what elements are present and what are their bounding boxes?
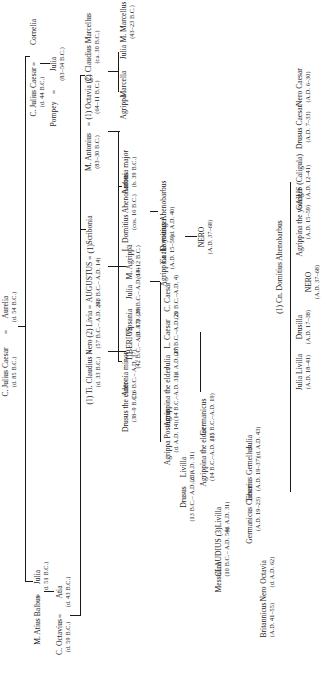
connector-line	[200, 332, 201, 392]
person-nero-spouse: Nero	[260, 586, 268, 601]
person-m-antonius: M. Antonius (83–30 B.C.)	[85, 133, 100, 171]
person-pompey: Pompey	[50, 102, 58, 127]
connector-line	[44, 591, 54, 592]
marriage-sign: =	[30, 62, 39, 67]
family-tree-diagram: C. Julius Caesar (d. 85 B.C.) = Aurelia …	[0, 0, 324, 692]
person-messalina: Messalina	[215, 562, 223, 593]
person-nero: NERO (A.D. 37–68)	[305, 265, 320, 299]
connector-line	[290, 182, 291, 492]
person-drusilla: Drusilla (A.D. 17–38)	[296, 310, 311, 344]
person-julia-livilla: Julia Livilla (A.D. 18–41)	[296, 354, 311, 391]
person-atia: Atia (d. 43 B.C.)	[56, 577, 71, 608]
person-cornelia: Cornelia	[30, 19, 38, 45]
person-julia-wife-of-pompey: Julia (83–54 B.C.)	[50, 47, 65, 81]
person-nero-caesar: Nero Caesar (A.D. 6–30)	[296, 68, 311, 106]
person-agrippa-postumus: Agrippa Postumus (d. A.D. 14)	[164, 409, 179, 465]
person-m-agrippa: M. Agrippa (63–12 B.C.)	[126, 244, 141, 279]
person-tiberius: TIBERIUS (42 B.C.– A.D. 37)	[126, 319, 141, 368]
person-l-domitius-ahenobarbus: L. Domitius Ahenobarbus (cos. 16 B.C.)	[122, 173, 137, 252]
connector-line	[70, 615, 80, 616]
connector-line	[25, 57, 26, 582]
connector-line	[108, 351, 126, 352]
marriage-sign: =	[2, 330, 11, 335]
marriage-sign: =	[50, 90, 59, 95]
person-m-marcellus: M. Marcellus (43–23 B.C.)	[120, 2, 135, 43]
person-agrippina-the-younger-2: Agrippina the younger (A.D. 15–59)	[296, 188, 311, 257]
connector-line	[160, 282, 161, 442]
marriage-sign: =	[56, 614, 65, 619]
person-julia-marcellus-wife: Julia	[120, 45, 128, 59]
person-julia-sister: Julia (d. 51 B.C.)	[34, 562, 49, 593]
person-germanicus-caesar: Germanicus Caesar (A.D. 19–23)	[246, 484, 261, 543]
person-drusus-caesar: Drusus Caesar (A.D. 7–33)	[296, 105, 311, 149]
connector-line	[150, 211, 158, 212]
person-drusus: Drusus (13 B.C.– A.D. 23)	[180, 472, 195, 521]
person-nero-upper: NERO (A.D. 37–68)	[198, 220, 213, 254]
person-aurelia: Aurelia (d. 54 B.C.)	[2, 292, 17, 323]
connector-line	[80, 76, 81, 616]
person-drusus-the-elder: Drusus the elder (38–9 B.C.)	[122, 382, 137, 432]
person-c-julius-caesar-senior: C. Julius Caesar (d. 85 B.C.)	[2, 347, 17, 396]
marriage-sign: =	[85, 122, 94, 127]
person-marcella: Marcella	[120, 71, 128, 98]
person-octavia: (1) Octavia (2) (64–11 B.C.)	[85, 74, 100, 119]
person-julius-caesar-dictator: C. Julius Caesar (d. 44 B.C.)	[30, 67, 45, 116]
connector-line	[25, 56, 30, 57]
person-scribonia: Scribonia	[86, 215, 94, 244]
person-m-atius-balbus: M. Atius Balbus	[34, 595, 42, 645]
person-agrippa-husband-of-marcella: Agrippa	[120, 95, 128, 120]
connector-line	[185, 236, 197, 237]
connector-line	[108, 71, 118, 72]
person-cn-domitius-ahenobarbus-2: (1) Cn. Domitius Ahenobarbus	[276, 220, 284, 314]
person-agrippina-the-elder-wife: Agrippina the elder (14 B.C.–A.D. 33)	[200, 427, 215, 486]
person-c-octavius: C. Octavius (d. 59 B.C.)	[56, 619, 71, 655]
person-ti-claudius-nero: (1) Ti. Claudius Nero (d. 33 B.C.)	[86, 340, 101, 405]
person-c-claudius-marcellus: C. Claudius Marcellus (ca. 30 B.C.)	[85, 13, 100, 81]
person-britannicus: Britannicus (A.D. 41–55)	[260, 602, 275, 637]
connector-line	[118, 132, 119, 187]
connector-line	[150, 281, 160, 282]
connector-line	[118, 187, 119, 362]
connector-line	[108, 266, 126, 267]
person-octavia-daughter-of-claudius: Octavia (d. A.D. 62)	[260, 557, 275, 588]
connector-line	[25, 581, 33, 582]
